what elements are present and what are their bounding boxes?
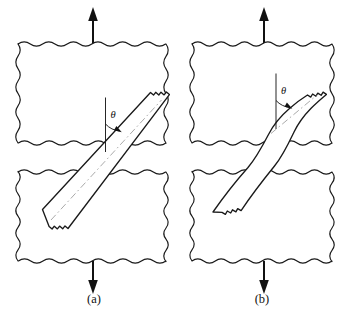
panel-b-theta-label: θ xyxy=(281,85,286,96)
panel-a: θ xyxy=(16,7,170,294)
panel-b-lower-block xyxy=(190,170,334,263)
panel-a-upper-block xyxy=(16,42,168,145)
panel-b: θ xyxy=(190,7,334,294)
panel-a-caption: (a) xyxy=(60,292,128,307)
panel-a-bottom-load-arrow xyxy=(88,261,98,294)
panel-a-top-load-arrow xyxy=(88,7,98,44)
panel-a-theta-label: θ xyxy=(111,109,116,120)
fiber-pullout-diagram: θ xyxy=(0,0,350,321)
panel-b-top-load-arrow xyxy=(259,7,269,44)
panel-b-caption: (b) xyxy=(228,292,296,307)
figure-root: θ xyxy=(0,0,350,321)
panel-b-bottom-load-arrow xyxy=(259,261,269,294)
